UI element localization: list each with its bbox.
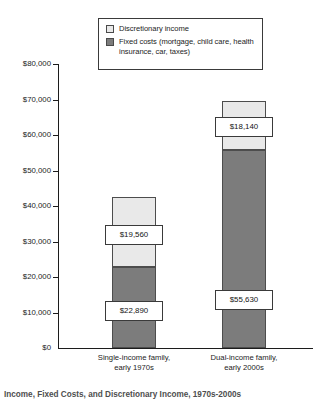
y-axis-tick: [53, 206, 58, 207]
y-axis-tick: [53, 242, 58, 243]
y-axis-tick: [53, 313, 58, 314]
y-axis-tick: [53, 64, 58, 65]
x-axis-category-dual-income-line2: early 2000s: [179, 363, 309, 373]
callout-fixed-costs-single-income: $22,890: [105, 301, 163, 321]
stacked-bar-chart: Discretionary income Fixed costs (mortga…: [0, 0, 317, 402]
legend-label-discretionary-income: Discretionary income: [119, 24, 189, 33]
legend-label-fixed-costs: Fixed costs (mortgage, child care, healt…: [119, 37, 256, 56]
x-axis-category-dual-income: Dual-income family, early 2000s: [179, 353, 309, 373]
y-axis-line: [58, 64, 59, 349]
figure-caption: Income, Fixed Costs, and Discretionary I…: [4, 389, 313, 400]
legend-item-fixed-costs: Fixed costs (mortgage, child care, healt…: [106, 37, 256, 56]
y-axis-tick: [53, 100, 58, 101]
legend-swatch-dark-icon: [106, 38, 114, 46]
callout-fixed-costs-dual-income: $55,630: [215, 290, 273, 310]
x-axis-line: [58, 348, 313, 349]
y-axis-tick: [53, 277, 58, 278]
legend-swatch-light-icon: [106, 25, 114, 33]
x-axis-category-dual-income-line1: Dual-income family,: [179, 353, 309, 363]
callout-discretionary-income-dual-income: $18,140: [215, 117, 273, 137]
chart-legend: Discretionary income Fixed costs (mortga…: [98, 18, 263, 70]
bar-segment-fixed-costs-dual-income: [222, 150, 266, 348]
y-axis-tick: [53, 171, 58, 172]
legend-item-discretionary-income: Discretionary income: [106, 24, 256, 33]
y-axis-tick: [53, 135, 58, 136]
callout-discretionary-income-single-income: $19,560: [105, 225, 163, 245]
